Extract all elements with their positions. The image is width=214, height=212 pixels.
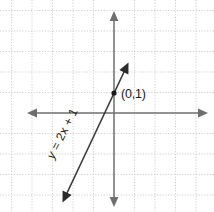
- y-axis-arrow-down-icon: [110, 197, 119, 207]
- graph-canvas: [0, 0, 214, 212]
- plotted-line: [63, 63, 129, 203]
- grid-horizontal-lines: [0, 11, 214, 196]
- y-axis-arrow-up-icon: [110, 11, 119, 21]
- x-axis-arrow-right-icon: [198, 109, 208, 118]
- grid-vertical-lines: [12, 0, 197, 212]
- coordinate-plane-figure: (0,1) y = 2x + 1: [0, 0, 214, 212]
- point-label-intercept: (0,1): [121, 88, 146, 101]
- y-axis: [110, 11, 119, 207]
- x-axis: [27, 109, 208, 118]
- point-marker-intercept: [111, 90, 116, 95]
